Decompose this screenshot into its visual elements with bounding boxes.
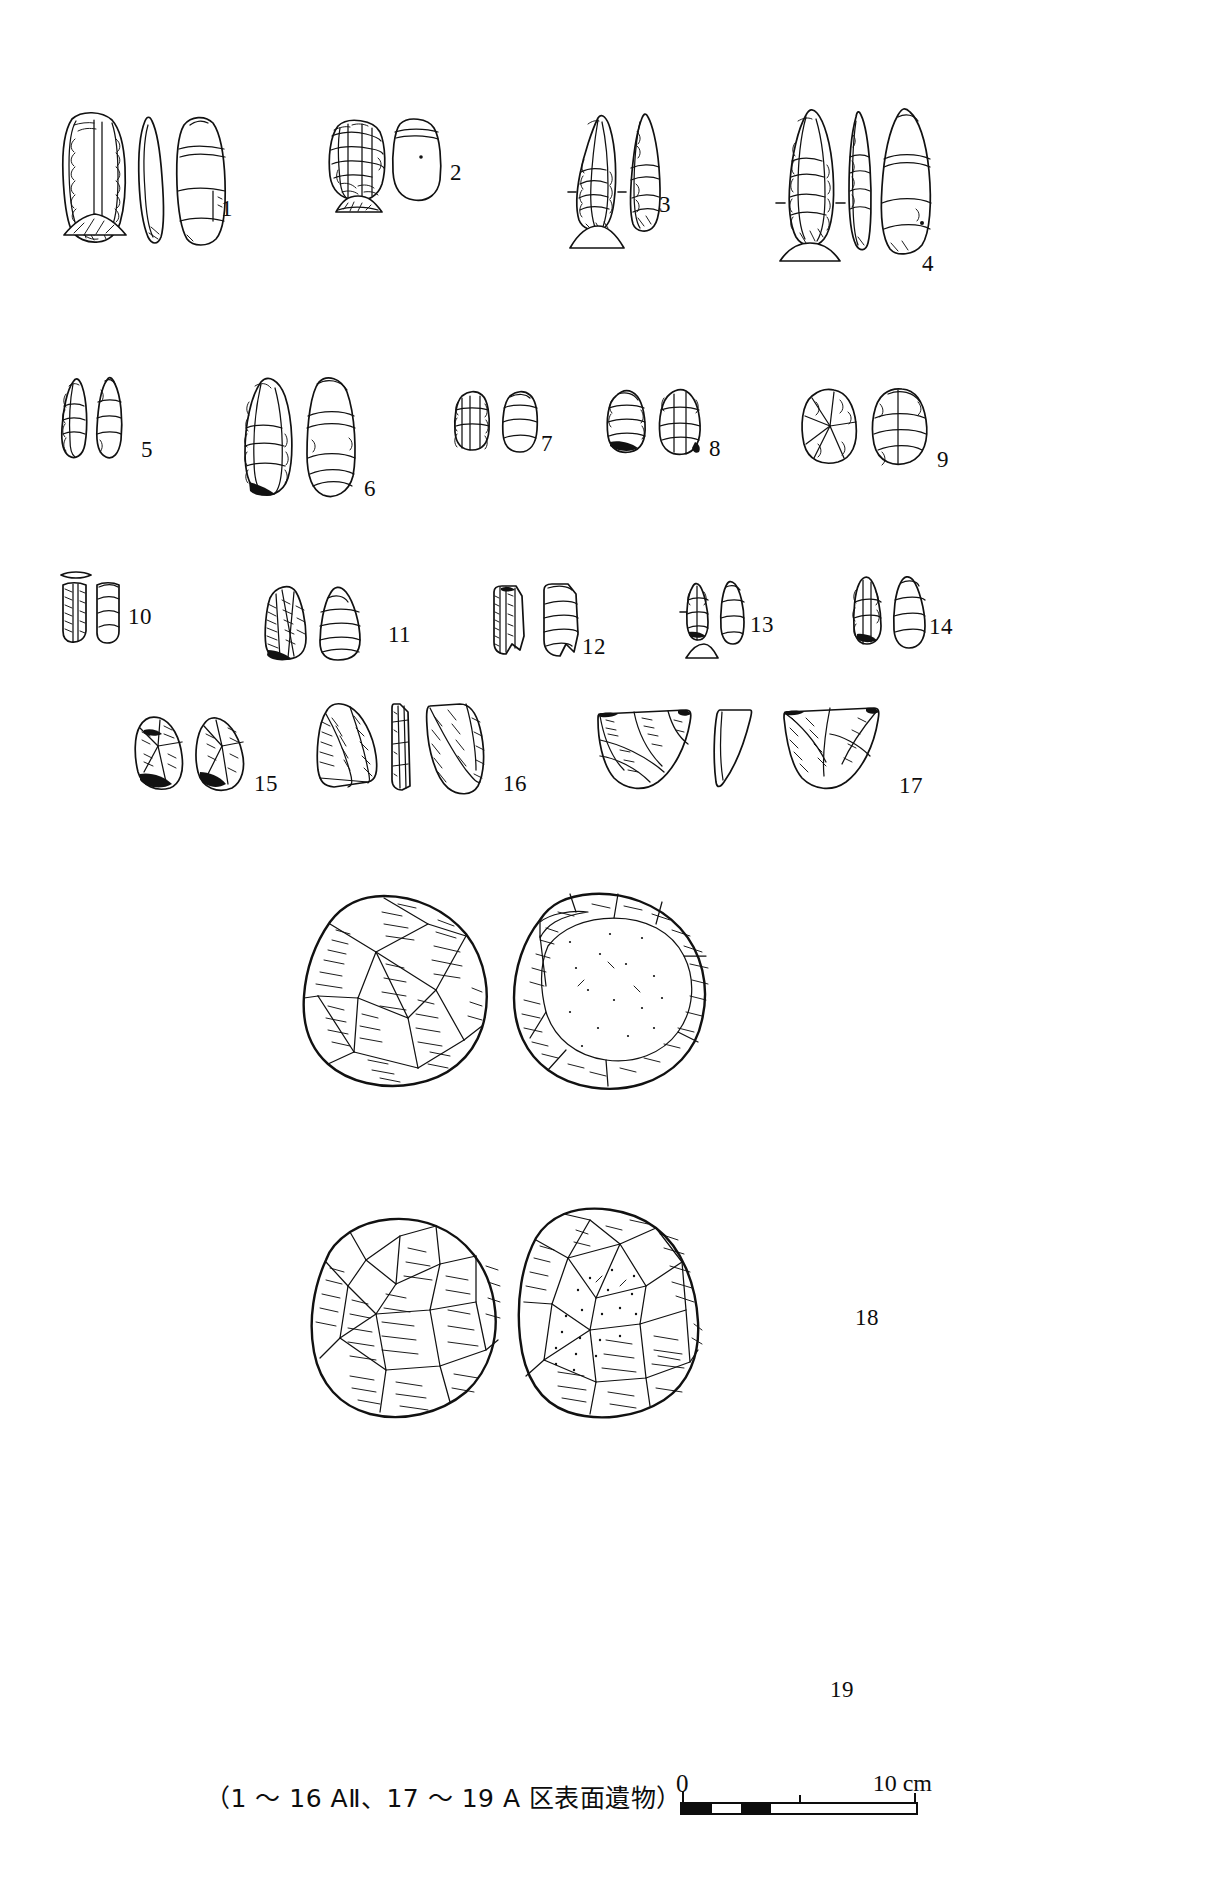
artifact-2-view-ventral bbox=[393, 119, 441, 200]
artifact-11-view-dorsal bbox=[265, 587, 306, 661]
artifact-7-view-ventral bbox=[503, 392, 537, 452]
artifact-14-view-dorsal bbox=[853, 577, 881, 644]
artifact-8-number: 8 bbox=[709, 437, 721, 460]
artifact-19-view-a bbox=[312, 1219, 500, 1417]
artifact-4-view-ventral bbox=[881, 109, 931, 254]
artifact-17-number: 17 bbox=[899, 774, 923, 797]
artifact-15-number: 15 bbox=[254, 772, 278, 795]
artifact-4-view-profile bbox=[849, 112, 871, 250]
artifact-18-number: 18 bbox=[855, 1306, 879, 1329]
artifact-6-number: 6 bbox=[364, 477, 376, 500]
artifact-4-drawing bbox=[772, 105, 952, 275]
scale-tick-mid bbox=[799, 1795, 801, 1804]
artifact-3-cross-section bbox=[570, 226, 624, 248]
artifact-14-number: 14 bbox=[929, 615, 953, 638]
artifact-19-number: 19 bbox=[830, 1678, 854, 1701]
artifact-13-cross-section bbox=[686, 644, 718, 658]
artifact-6-view-ventral bbox=[307, 378, 355, 497]
artifact-12-drawing bbox=[482, 578, 597, 663]
scale-tick-start bbox=[682, 1791, 684, 1804]
artifact-18-view-b bbox=[514, 894, 708, 1089]
artifact-13-number: 13 bbox=[750, 613, 774, 636]
artifact-14-view-ventral bbox=[894, 577, 925, 648]
artifact-11-view-ventral bbox=[320, 587, 360, 660]
scale-tick-end bbox=[914, 1793, 916, 1804]
artifact-16-view-profile bbox=[392, 704, 410, 790]
artifact-3-number: 3 bbox=[659, 193, 671, 216]
artifact-2-cross-section bbox=[336, 196, 382, 212]
artifact-1-number: 1 bbox=[221, 197, 233, 220]
artifact-13-view-dorsal bbox=[687, 584, 708, 640]
artifact-1-view-ventral bbox=[177, 118, 225, 245]
artifact-9-view-ventral bbox=[872, 389, 926, 465]
artifact-12-view-ventral bbox=[544, 584, 578, 656]
scale-segment-1 bbox=[682, 1804, 712, 1813]
artifact-14-drawing bbox=[845, 572, 945, 652]
artifact-10-view-ventral bbox=[97, 583, 119, 643]
artifact-4-cross-section bbox=[780, 243, 840, 261]
artifact-3-view-dorsal bbox=[577, 116, 616, 231]
artifact-9-view-dorsal bbox=[802, 389, 856, 463]
artifact-15-view-dorsal bbox=[135, 717, 182, 789]
artifact-19-view-b bbox=[519, 1209, 702, 1418]
artifact-10-cross-section bbox=[61, 572, 91, 578]
artifact-3-view-ventral bbox=[631, 114, 660, 231]
artifact-11-number: 11 bbox=[388, 623, 411, 646]
artifact-12-number: 12 bbox=[582, 635, 606, 658]
artifact-16-view-dorsal bbox=[317, 704, 376, 787]
artifact-11-drawing bbox=[258, 580, 378, 665]
artifact-16-view-ventral bbox=[427, 704, 484, 794]
artifact-18-view-a bbox=[304, 896, 487, 1086]
artifact-17-drawing bbox=[590, 700, 910, 800]
artifact-4-view-dorsal bbox=[789, 110, 833, 246]
artifact-6-drawing bbox=[235, 372, 375, 502]
scale-segment-2 bbox=[741, 1804, 771, 1813]
artifact-17-view-ventral bbox=[784, 708, 879, 789]
artifact-10-number: 10 bbox=[128, 605, 152, 628]
artifact-5-view-dorsal bbox=[62, 379, 87, 458]
artifact-8-view-ventral bbox=[659, 390, 700, 455]
artifact-2-number: 2 bbox=[450, 161, 462, 184]
artifact-9-number: 9 bbox=[937, 448, 949, 471]
artifact-2-view-dorsal bbox=[329, 120, 385, 200]
artifact-15-view-ventral bbox=[196, 718, 244, 790]
artifact-17-view-profile bbox=[714, 710, 751, 787]
artifact-3-drawing bbox=[562, 110, 672, 255]
artifact-5-view-ventral bbox=[97, 378, 122, 458]
artifact-17-view-dorsal bbox=[598, 710, 691, 789]
artifact-10-view-dorsal bbox=[63, 583, 86, 642]
figure-caption: （1 ～ 16 AⅡ、17 ～ 19 A 区表面遺物） bbox=[205, 1778, 682, 1814]
artifact-9-drawing bbox=[792, 382, 937, 472]
artifact-18-drawing bbox=[258, 868, 758, 1108]
artifact-5-drawing bbox=[55, 372, 140, 462]
artifact-2-drawing bbox=[320, 110, 455, 220]
artifact-15-drawing bbox=[128, 710, 258, 800]
artifact-4-number: 4 bbox=[922, 252, 934, 275]
scale-bar-track bbox=[680, 1802, 918, 1815]
artifact-7-drawing bbox=[448, 388, 548, 458]
artifact-6-view-dorsal bbox=[245, 378, 292, 495]
artifact-13-view-ventral bbox=[721, 582, 744, 644]
scale-end-label: 10 cm bbox=[873, 1770, 932, 1797]
artifact-16-drawing bbox=[308, 698, 508, 803]
artifact-7-view-dorsal bbox=[455, 392, 489, 450]
artifact-1-view-profile bbox=[139, 117, 164, 243]
artifact-5-number: 5 bbox=[141, 438, 153, 461]
artifact-12-view-dorsal bbox=[494, 586, 524, 654]
artifact-8-view-dorsal bbox=[607, 391, 645, 453]
artifact-8-drawing bbox=[600, 386, 710, 461]
artifact-19-drawing bbox=[290, 1190, 750, 1430]
scale-bar: 0 10 cm bbox=[676, 1774, 924, 1826]
artifact-plate-figure: 1 bbox=[0, 0, 1226, 1903]
artifact-7-number: 7 bbox=[541, 432, 553, 455]
artifact-1-drawing bbox=[50, 105, 240, 260]
artifact-16-number: 16 bbox=[503, 772, 527, 795]
